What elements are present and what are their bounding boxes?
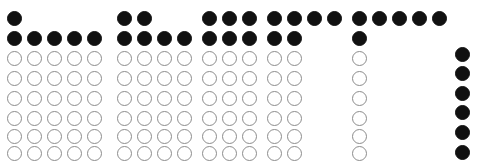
dot-open-group-2-r6-c2 — [137, 111, 152, 126]
dot-filled-group-6-r7-c1 — [455, 125, 470, 140]
dot-filled-group-2-r2-c1 — [117, 31, 132, 46]
dot-open-group-4-r7-c1 — [267, 129, 282, 144]
dot-open-group-1-r7-c3 — [47, 129, 62, 144]
dot-open-group-2-r4-c3 — [157, 71, 172, 86]
dot-open-group-1-r8-c5 — [87, 146, 102, 161]
dot-filled-group-3-r1-c3 — [242, 11, 257, 26]
dot-open-group-1-r5-c3 — [47, 91, 62, 106]
dot-open-group-2-r3-c3 — [157, 51, 172, 66]
dot-open-group-2-r5-c1 — [117, 91, 132, 106]
dot-open-group-2-r4-c4 — [177, 71, 192, 86]
dot-open-group-3-r6-c2 — [222, 111, 237, 126]
dot-open-group-3-r7-c1 — [202, 129, 217, 144]
dot-open-group-5-r4-c1 — [352, 71, 367, 86]
dot-filled-group-5-r2-c1 — [352, 31, 367, 46]
dot-filled-group-4-r2-c2 — [287, 31, 302, 46]
dot-open-group-1-r6-c2 — [27, 111, 42, 126]
dot-open-group-2-r8-c3 — [157, 146, 172, 161]
dot-open-group-4-r4-c1 — [267, 71, 282, 86]
dot-filled-group-1-r2-c5 — [87, 31, 102, 46]
dot-open-group-2-r6-c3 — [157, 111, 172, 126]
dot-filled-group-3-r2-c3 — [242, 31, 257, 46]
dot-filled-group-5-r1-c5 — [432, 11, 447, 26]
dot-open-group-2-r8-c4 — [177, 146, 192, 161]
dot-open-group-2-r5-c4 — [177, 91, 192, 106]
dot-open-group-2-r4-c1 — [117, 71, 132, 86]
dot-open-group-1-r8-c1 — [7, 146, 22, 161]
dot-open-group-1-r7-c2 — [27, 129, 42, 144]
dot-open-group-4-r3-c2 — [287, 51, 302, 66]
dot-open-group-1-r7-c1 — [7, 129, 22, 144]
dot-filled-group-3-r1-c2 — [222, 11, 237, 26]
dot-open-group-3-r8-c3 — [242, 146, 257, 161]
dot-filled-group-6-r6-c1 — [455, 105, 470, 120]
dot-open-group-1-r3-c5 — [87, 51, 102, 66]
dot-open-group-1-r5-c4 — [67, 91, 82, 106]
dot-open-group-4-r8-c1 — [267, 146, 282, 161]
dot-open-group-3-r6-c1 — [202, 111, 217, 126]
dot-open-group-1-r4-c4 — [67, 71, 82, 86]
dot-open-group-2-r4-c2 — [137, 71, 152, 86]
dot-open-group-3-r6-c3 — [242, 111, 257, 126]
dot-open-group-4-r4-c2 — [287, 71, 302, 86]
dot-open-group-3-r8-c2 — [222, 146, 237, 161]
dot-filled-group-1-r2-c1 — [7, 31, 22, 46]
dot-open-group-2-r7-c4 — [177, 129, 192, 144]
dot-filled-group-3-r2-c2 — [222, 31, 237, 46]
dot-array-canvas — [0, 0, 480, 164]
dot-filled-group-6-r8-c1 — [455, 145, 470, 160]
dot-open-group-1-r3-c1 — [7, 51, 22, 66]
dot-open-group-4-r7-c2 — [287, 129, 302, 144]
dot-open-group-1-r3-c3 — [47, 51, 62, 66]
dot-open-group-2-r7-c3 — [157, 129, 172, 144]
dot-filled-group-6-r4-c1 — [455, 66, 470, 81]
dot-open-group-5-r6-c1 — [352, 111, 367, 126]
dot-open-group-1-r4-c5 — [87, 71, 102, 86]
dot-filled-group-6-r5-c1 — [455, 86, 470, 101]
dot-filled-group-2-r2-c2 — [137, 31, 152, 46]
dot-filled-group-5-r1-c4 — [412, 11, 427, 26]
dot-open-group-1-r6-c3 — [47, 111, 62, 126]
dot-filled-group-1-r1-c1 — [7, 11, 22, 26]
dot-open-group-3-r4-c2 — [222, 71, 237, 86]
dot-open-group-5-r8-c1 — [352, 146, 367, 161]
dot-open-group-1-r5-c5 — [87, 91, 102, 106]
dot-open-group-4-r6-c2 — [287, 111, 302, 126]
dot-filled-group-4-r2-c1 — [267, 31, 282, 46]
dot-open-group-2-r7-c1 — [117, 129, 132, 144]
dot-open-group-2-r8-c2 — [137, 146, 152, 161]
dot-open-group-2-r6-c1 — [117, 111, 132, 126]
dot-open-group-1-r3-c4 — [67, 51, 82, 66]
dot-open-group-1-r5-c1 — [7, 91, 22, 106]
dot-open-group-4-r6-c1 — [267, 111, 282, 126]
dot-open-group-3-r3-c1 — [202, 51, 217, 66]
dot-filled-group-2-r1-c2 — [137, 11, 152, 26]
dot-filled-group-4-r1-c2 — [287, 11, 302, 26]
dot-open-group-1-r8-c4 — [67, 146, 82, 161]
dot-filled-group-2-r2-c3 — [157, 31, 172, 46]
dot-open-group-3-r7-c2 — [222, 129, 237, 144]
dot-open-group-3-r4-c3 — [242, 71, 257, 86]
dot-filled-group-4-r1-c1 — [267, 11, 282, 26]
dot-open-group-2-r3-c1 — [117, 51, 132, 66]
dot-filled-group-1-r2-c4 — [67, 31, 82, 46]
dot-filled-group-5-r1-c2 — [372, 11, 387, 26]
dot-open-group-3-r5-c1 — [202, 91, 217, 106]
dot-filled-group-1-r2-c2 — [27, 31, 42, 46]
dot-open-group-4-r5-c1 — [267, 91, 282, 106]
dot-open-group-1-r6-c5 — [87, 111, 102, 126]
dot-open-group-1-r7-c5 — [87, 129, 102, 144]
dot-open-group-3-r5-c3 — [242, 91, 257, 106]
dot-open-group-1-r7-c4 — [67, 129, 82, 144]
dot-open-group-3-r3-c2 — [222, 51, 237, 66]
dot-filled-group-4-r1-c3 — [307, 11, 322, 26]
dot-filled-group-5-r1-c1 — [352, 11, 367, 26]
dot-open-group-3-r3-c3 — [242, 51, 257, 66]
dot-open-group-5-r5-c1 — [352, 91, 367, 106]
dot-filled-group-5-r1-c3 — [392, 11, 407, 26]
dot-open-group-1-r4-c1 — [7, 71, 22, 86]
dot-open-group-3-r8-c1 — [202, 146, 217, 161]
dot-open-group-2-r3-c2 — [137, 51, 152, 66]
dot-open-group-1-r4-c2 — [27, 71, 42, 86]
dot-open-group-1-r8-c3 — [47, 146, 62, 161]
